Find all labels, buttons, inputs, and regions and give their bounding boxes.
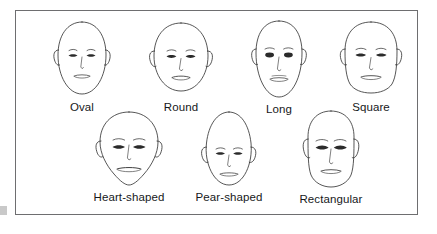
face-item-rectangular: Rectangular	[273, 109, 389, 206]
face-label-heart-shaped: Heart-shaped	[71, 192, 187, 204]
pear-shaped-face-illustration	[189, 109, 269, 191]
face-item-round: Round	[129, 19, 233, 114]
figure-root: Oval Ro	[0, 0, 437, 234]
oval-face-illustration	[43, 19, 121, 101]
face-item-heart-shaped: Heart-shaped	[71, 109, 187, 204]
page-edge-artifact	[0, 206, 7, 215]
face-item-pear-shaped: Pear-shaped	[171, 109, 287, 204]
face-label-pear-shaped: Pear-shaped	[171, 192, 287, 204]
face-item-square: Square	[319, 19, 423, 114]
long-face-illustration	[241, 19, 317, 103]
face-grid: Oval Ro	[16, 11, 417, 214]
face-shapes-panel: Oval Ro	[15, 10, 418, 215]
rectangular-face-illustration	[292, 109, 370, 193]
face-item-long: Long	[227, 19, 331, 116]
face-item-oval: Oval	[30, 19, 134, 114]
square-face-illustration	[329, 19, 413, 101]
round-face-illustration	[140, 19, 222, 101]
heart-shaped-face-illustration	[86, 109, 172, 191]
face-label-rectangular: Rectangular	[273, 194, 389, 206]
